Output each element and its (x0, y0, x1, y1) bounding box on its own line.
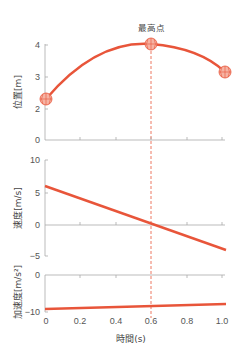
ball-icon-start (40, 93, 52, 105)
acceleration-tick: −10 (25, 307, 40, 317)
peak-annotation: 最高点 (138, 23, 165, 33)
position-tick: 3 (35, 72, 40, 82)
ball-icon-peak (145, 38, 157, 50)
velocity-tick: 0 (35, 220, 40, 230)
x-tick: 0.2 (74, 316, 87, 326)
velocity-panel: 10 5 0 −5 速度[m/s] (12, 155, 226, 261)
kinematics-chart: 最高点 4 3 2 0 位置[m] (0, 0, 245, 353)
position-tick: 2 (35, 104, 40, 114)
position-panel: 4 3 2 0 位置[m] (12, 38, 231, 145)
velocity-y-label: 速度[m/s] (12, 187, 23, 229)
acceleration-y-label: 加速度[m/s²] (12, 265, 23, 319)
acceleration-panel: 0 −10 加速度[m/s²] (12, 265, 226, 319)
x-axis-label: 時間(s) (116, 334, 146, 344)
x-tick: 0.8 (181, 316, 194, 326)
x-tick: 1.0 (216, 316, 229, 326)
position-tick: 0 (35, 135, 40, 145)
velocity-tick: −5 (30, 251, 40, 261)
x-tick: 0.4 (110, 316, 123, 326)
x-tick: 0 (43, 316, 48, 326)
velocity-tick: 10 (30, 155, 40, 165)
x-axis: 0 0.2 0.4 0.6 0.8 1.0 時間(s) (43, 316, 228, 344)
velocity-line (45, 186, 226, 250)
ball-icon-end (219, 66, 231, 78)
velocity-tick: 5 (35, 188, 40, 198)
x-tick: 0.6 (145, 316, 158, 326)
position-y-label: 位置[m] (12, 75, 23, 109)
acceleration-line (45, 304, 226, 309)
position-curve (46, 44, 225, 99)
acceleration-tick: 0 (35, 270, 40, 280)
position-tick: 4 (35, 40, 40, 50)
